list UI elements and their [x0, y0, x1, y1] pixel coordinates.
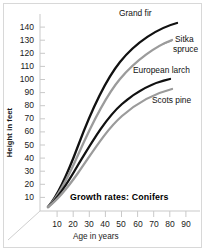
y-tick-label-50: 50	[12, 141, 34, 150]
x-tick-label-10: 10	[49, 220, 65, 229]
x-tick-label-70: 70	[146, 220, 162, 229]
y-tick-label-80: 80	[12, 101, 34, 110]
series-label-sitka-spruce-line1: Sitka	[175, 35, 194, 44]
x-tick-label-40: 40	[97, 220, 113, 229]
y-tick-label-60: 60	[12, 127, 34, 136]
perspective-baseline	[8, 211, 40, 240]
x-tick-label-60: 60	[130, 220, 146, 229]
y-tick-label-140: 140	[12, 23, 34, 32]
y-tick-label-120: 120	[12, 49, 34, 58]
series-label-grand-fir: Grand fir	[119, 9, 152, 18]
y-tick-label-30: 30	[12, 167, 34, 176]
x-tick-marks	[57, 211, 186, 217]
x-axis-title: Age in years	[73, 233, 119, 241]
y-tick-label-20: 20	[12, 180, 34, 189]
x-tick-label-20: 20	[65, 220, 81, 229]
y-tick-label-100: 100	[12, 75, 34, 84]
y-tick-label-110: 110	[12, 62, 34, 71]
y-axis-title: Height in feet	[5, 105, 14, 161]
series-label-scots-pine: Scots pine	[152, 96, 191, 105]
chart-title: Growth rates: Conifers	[70, 192, 169, 202]
x-tick-label-50: 50	[113, 220, 129, 229]
series-label-sitka-spruce-line2: spruce	[173, 45, 198, 54]
y-tick-label-130: 130	[12, 36, 34, 45]
chart-figure: 140 130 120 110 100 90 80 70 60 50 40 30…	[0, 0, 206, 252]
x-tick-label-80: 80	[162, 220, 178, 229]
x-tick-label-90: 90	[178, 220, 194, 229]
series-label-european-larch: European larch	[133, 66, 190, 75]
series-line-scots-pine	[48, 89, 172, 207]
y-tick-marks	[40, 27, 45, 197]
y-tick-label-70: 70	[12, 114, 34, 123]
x-tick-label-30: 30	[81, 220, 97, 229]
y-tick-label-10: 10	[12, 193, 34, 202]
y-tick-label-90: 90	[12, 88, 34, 97]
y-tick-label-40: 40	[12, 154, 34, 163]
